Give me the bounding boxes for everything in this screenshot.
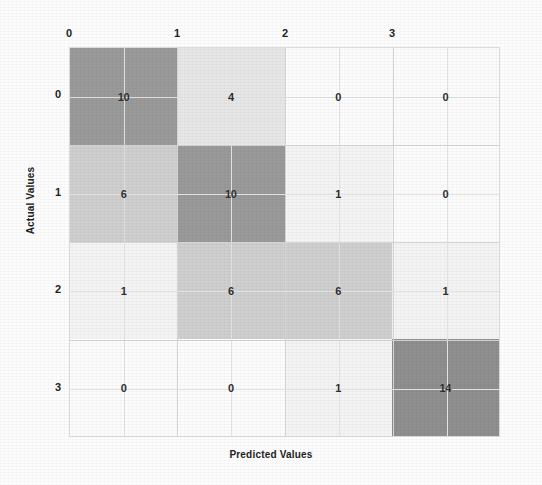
heatmap-cell-r2c3[interactable]: 1 bbox=[392, 242, 499, 339]
y-tick-label-1: 1 bbox=[45, 186, 61, 198]
heatmap-plot-area: 10 4 0 0 6 10 1 0 1 6 6 1 0 0 1 14 bbox=[69, 47, 500, 437]
heatmap-cell-r2c0[interactable]: 1 bbox=[70, 242, 177, 339]
heatmap-cell-r2c2[interactable]: 6 bbox=[285, 242, 392, 339]
heatmap-cell-r0c3[interactable]: 0 bbox=[392, 48, 499, 145]
heatmap-cell-r1c0[interactable]: 6 bbox=[70, 145, 177, 242]
heatmap-cell-r3c3[interactable]: 14 bbox=[392, 339, 499, 436]
heatmap-cell-r3c2[interactable]: 1 bbox=[285, 339, 392, 436]
heatmap-cell-r1c2[interactable]: 1 bbox=[285, 145, 392, 242]
x-axis-label: Predicted Values bbox=[0, 449, 542, 460]
cell-value: 1 bbox=[335, 188, 341, 200]
cell-value: 14 bbox=[439, 382, 451, 394]
y-tick-label-0: 0 bbox=[45, 88, 61, 100]
cell-value: 0 bbox=[442, 188, 448, 200]
cell-value: 0 bbox=[121, 382, 127, 394]
heatmap-cell-r0c2[interactable]: 0 bbox=[285, 48, 392, 145]
cell-value: 0 bbox=[228, 382, 234, 394]
heatmap-cell-r3c1[interactable]: 0 bbox=[177, 339, 284, 436]
cell-value: 6 bbox=[228, 285, 234, 297]
heatmap-cell-r0c1[interactable]: 4 bbox=[177, 48, 284, 145]
x-tick-label-2: 2 bbox=[273, 27, 297, 39]
cell-value: 1 bbox=[442, 285, 448, 297]
cell-value: 10 bbox=[118, 91, 130, 103]
x-tick-label-0: 0 bbox=[57, 27, 81, 39]
cell-value: 10 bbox=[225, 188, 237, 200]
cell-value: 1 bbox=[335, 382, 341, 394]
y-tick-label-2: 2 bbox=[45, 283, 61, 295]
x-tick-label-3: 3 bbox=[380, 27, 404, 39]
cell-value: 4 bbox=[228, 91, 234, 103]
cell-value: 0 bbox=[335, 91, 341, 103]
heatmap-cell-r1c1[interactable]: 10 bbox=[177, 145, 284, 242]
confusion-matrix-figure: 0 1 2 3 0 1 2 3 10 4 0 0 6 10 1 0 1 6 6 … bbox=[0, 0, 542, 485]
cell-value: 1 bbox=[121, 285, 127, 297]
heatmap-cell-grid: 10 4 0 0 6 10 1 0 1 6 6 1 0 0 1 14 bbox=[70, 48, 499, 436]
heatmap-cell-r3c0[interactable]: 0 bbox=[70, 339, 177, 436]
cell-value: 6 bbox=[335, 285, 341, 297]
cell-value: 6 bbox=[121, 188, 127, 200]
y-tick-label-3: 3 bbox=[45, 381, 61, 393]
heatmap-cell-r0c0[interactable]: 10 bbox=[70, 48, 177, 145]
cell-value: 0 bbox=[442, 91, 448, 103]
heatmap-cell-r1c3[interactable]: 0 bbox=[392, 145, 499, 242]
y-axis-label: Actual Values bbox=[25, 131, 36, 271]
heatmap-cell-r2c1[interactable]: 6 bbox=[177, 242, 284, 339]
x-tick-label-1: 1 bbox=[165, 27, 189, 39]
